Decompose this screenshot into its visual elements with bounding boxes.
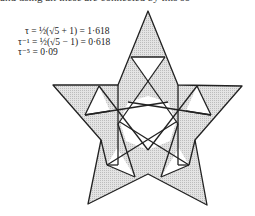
pentagram-figure [0, 0, 255, 216]
